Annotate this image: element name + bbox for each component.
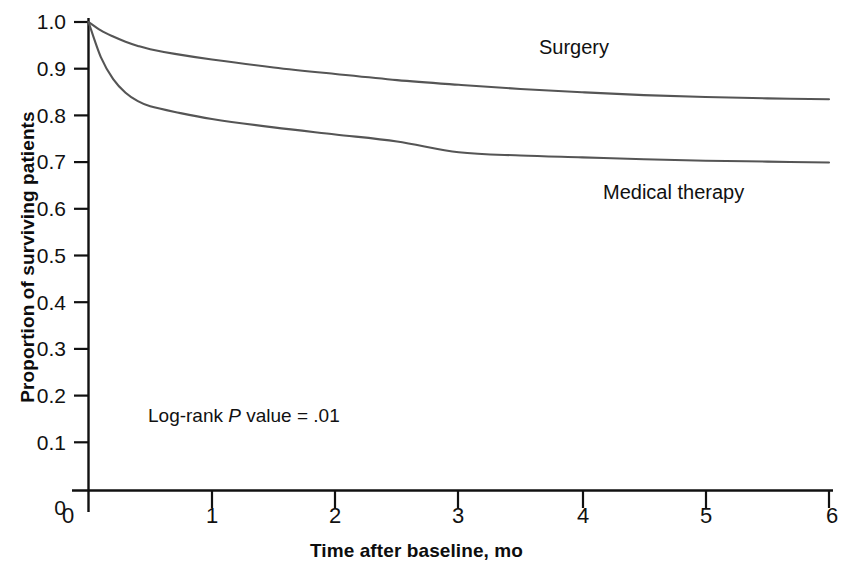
x-tick-label-5: 5 [686, 505, 726, 527]
log-rank-p-value-annotation: Log-rank P value = .01 [148, 405, 340, 427]
x-tick-label-1: 1 [192, 505, 232, 527]
annotation-italic-p: P [228, 405, 241, 426]
x-tick-label-0: 0 [48, 505, 88, 527]
y-tick-label-2: 0.9 [8, 58, 66, 79]
annotation-suffix: value = .01 [241, 405, 340, 426]
y-axis-title: Proportion of surviving patients [17, 77, 39, 437]
x-axis-title: Time after baseline, mo [0, 540, 833, 562]
x-tick-label-4: 4 [563, 505, 603, 527]
x-tick-label-3: 3 [438, 505, 478, 527]
y-axis-ticks [74, 22, 88, 442]
series-label-surgery: Surgery [539, 36, 609, 59]
x-tick-label-6: 6 [812, 505, 842, 527]
curve-medical-therapy [89, 22, 830, 163]
series-label-medical-therapy: Medical therapy [603, 181, 744, 204]
x-axis-ticks [212, 490, 829, 508]
annotation-prefix: Log-rank [148, 405, 228, 426]
curve-surgery [89, 22, 830, 99]
x-tick-label-2: 2 [315, 505, 355, 527]
y-tick-label-1: 1.0 [8, 11, 66, 32]
